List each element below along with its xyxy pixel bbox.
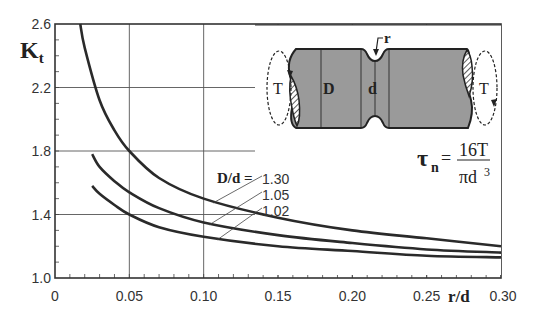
formula-exponent: 3 (484, 165, 490, 179)
y-tick-label: 1.8 (32, 143, 52, 159)
legend-title: D/d = (217, 170, 253, 186)
major-diameter-label: D (323, 80, 335, 97)
y-tick-label: 2.6 (32, 16, 52, 32)
radius-label: r (384, 30, 391, 46)
y-tick-label: 2.2 (32, 80, 52, 96)
x-tick-label: 0.25 (413, 288, 440, 304)
formula-tau: τ (417, 145, 428, 171)
formula-numerator: 16T (459, 140, 488, 160)
chart: 00.050.100.150.200.250.30 1.01.41.82.22.… (0, 0, 534, 320)
x-tick-label: 0.20 (339, 288, 366, 304)
x-tick-label: 0.05 (116, 288, 143, 304)
legend-label-1-30: 1.30 (262, 171, 289, 187)
x-axis-ticks: 00.050.100.150.200.250.30 (51, 288, 517, 304)
y-axis-label: Kt (20, 37, 44, 66)
formula-equals: = (441, 148, 451, 168)
torque-label-left: T (273, 80, 283, 97)
minor-diameter-label: d (368, 80, 377, 97)
formula-denominator: πd (459, 167, 477, 187)
x-tick-label: 0 (51, 288, 59, 304)
y-tick-label: 1.4 (32, 207, 52, 223)
formula-subscript: n (431, 160, 439, 175)
x-axis-label: r/d (448, 287, 470, 306)
y-tick-label: 1.0 (32, 270, 52, 286)
x-tick-label: 0.30 (489, 288, 516, 304)
legend-label-1-05: 1.05 (262, 187, 289, 203)
shaft-body (289, 49, 472, 128)
x-tick-label: 0.10 (190, 288, 217, 304)
torque-label-right: T (479, 80, 489, 97)
legend-label-1-02: 1.02 (262, 203, 289, 219)
leader-1-05 (209, 192, 262, 225)
x-tick-label: 0.15 (264, 288, 291, 304)
